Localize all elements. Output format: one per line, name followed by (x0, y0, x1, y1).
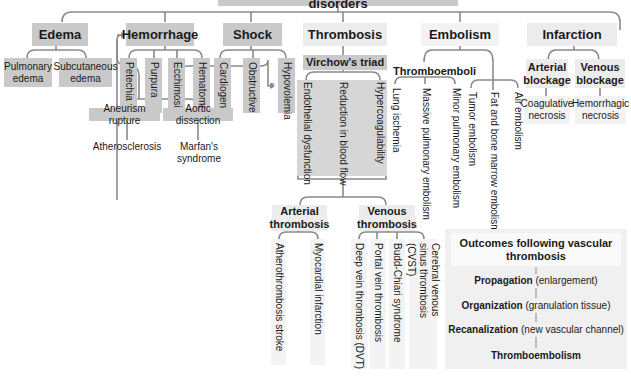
cvst-label: Cerebral venous sinus thrombosis (CVST) (405, 243, 441, 319)
venous-blockage-box: Venous blockage (575, 59, 625, 88)
endothelial-dysfunction-item: Endothelial dysfunction (300, 80, 314, 176)
arterial-thrombosis-box: Arterial thrombosis (272, 205, 327, 231)
endothelial-dysfunction-label: Endothelial dysfunction (301, 82, 313, 176)
hypercoagulability-label: Hypercoagulability (374, 82, 386, 176)
hypovolemia-label: Hypovolemia (281, 62, 293, 113)
reduced-blood-flow-item: Reduction in blood flow (336, 80, 350, 176)
obstructive-box: Obstructive (243, 58, 260, 113)
atherothrombosis-stroke-label: Atherothrombosis stroke (273, 243, 285, 365)
lung-ischemia-label: Lung ischemia (390, 88, 402, 224)
fat-embolism-item: Fat and bone marrow embolism (487, 88, 501, 228)
shock-box: Shock (223, 23, 282, 46)
outcomes-panel: Outcomes following vascular thrombosis P… (445, 229, 627, 369)
pulmonary-edema-box: Pulmonary edema (4, 58, 52, 87)
myocardial-infarction-box: Myocardial infarction (310, 239, 325, 365)
virchows-triad-box: Virchow's triad (303, 55, 387, 70)
hemorrhage-box: Hemorrhage (126, 23, 194, 46)
infarction-box: Infarction (527, 23, 617, 46)
minor-pe-label: Minor pulmonary embolism (450, 88, 462, 224)
dvt-label: Deep vein thrombosis (DVT) (353, 243, 365, 369)
aortic-dissection-box: Aortic dissection (163, 108, 233, 121)
reduced-blood-flow-label: Reduction in blood flow (337, 82, 349, 176)
marfans-label: Marfan's syndrome (163, 141, 235, 165)
budd-chiari-label: Budd-Chiari syndrome (391, 243, 403, 369)
massive-pe-item: Massive pulmonary embolism (419, 84, 433, 224)
tumor-embolism-label: Tumor embolism (466, 92, 478, 228)
tumor-embolism-item: Tumor embolism (465, 88, 479, 228)
dvt-box: Deep vein thrombosis (DVT) (351, 239, 367, 369)
atherothrombosis-stroke-box: Atherothrombosis stroke (271, 239, 286, 365)
obstructive-label: Obstructive (246, 62, 258, 113)
arterial-blockage-box: Arterial blockage (526, 59, 568, 88)
portal-vein-thrombosis-box: Portal vein thrombosis (370, 239, 386, 369)
diagram-title-text: Pathophysiology of hemodynamic disorders (218, 0, 458, 11)
coagulative-necrosis-box: Coagulative necrosis (524, 96, 570, 124)
hypercoagulability-item: Hypercoagulability (373, 80, 387, 176)
hemorrhagic-necrosis-box: Hemorrhagic necrosis (575, 96, 626, 124)
massive-pe-label: Massive pulmonary embolism (420, 88, 432, 224)
minor-pe-item: Minor pulmonary embolism (449, 84, 463, 224)
myocardial-infarction-label: Myocardial infarction (312, 243, 324, 365)
venous-thrombosis-box: Venous thrombosis (359, 205, 415, 231)
atherosclerosis-label: Atherosclerosis (90, 141, 164, 153)
aneurysm-rupture-box: Aneurism rupture (89, 108, 160, 121)
fat-embolism-label: Fat and bone marrow embolism (488, 92, 500, 228)
embolism-box: Embolism (421, 23, 499, 46)
thromboemboli-label: Thromboemboli (393, 65, 463, 78)
diagram-title: Pathophysiology of hemodynamic disorders (218, 0, 458, 6)
thrombosis-box: Thrombosis (303, 23, 387, 46)
budd-chiari-box: Budd-Chiari syndrome (389, 239, 405, 369)
lung-ischemia-item: Lung ischemia (389, 84, 403, 224)
hypovolemia-box: Hypovolemia (278, 58, 295, 113)
portal-vein-thrombosis-label: Portal vein thrombosis (372, 243, 384, 369)
outcomes-connectors (445, 229, 627, 369)
edema-box: Edema (32, 23, 88, 46)
subcutaneous-edema-box: Subcutaneous edema (59, 58, 112, 87)
cvst-box: Cerebral venous sinus thrombosis (CVST) (409, 239, 437, 369)
